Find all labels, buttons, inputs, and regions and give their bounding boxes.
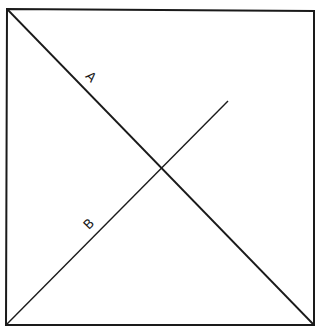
line-b — [6, 101, 228, 325]
label-b: B — [80, 215, 97, 232]
diagram-canvas: A B — [0, 0, 318, 330]
label-a: A — [83, 68, 100, 85]
